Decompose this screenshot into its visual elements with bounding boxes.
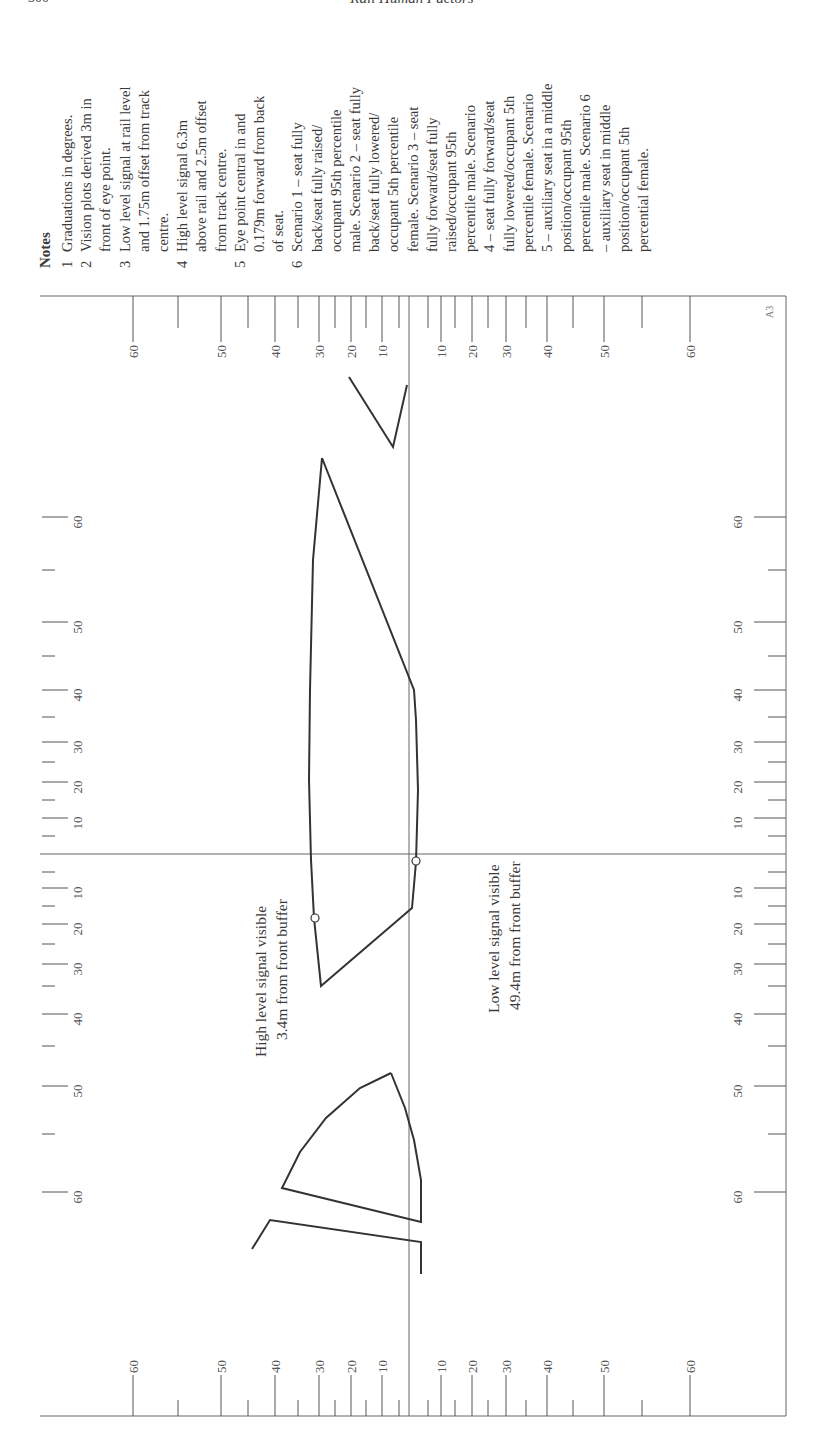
tick-label: 20 <box>70 781 85 794</box>
notes-heading: Notes <box>37 232 53 268</box>
tick-label: 30 <box>730 963 745 976</box>
tick-label: 20 <box>70 923 85 936</box>
signal-markers <box>311 857 420 922</box>
note-number: 4 <box>174 260 190 268</box>
tick-label: 20 <box>344 345 359 358</box>
tick-label: 10 <box>730 817 745 830</box>
tick-label: 30 <box>499 345 514 358</box>
note-line: position/occupant 5th <box>616 126 632 252</box>
note-line: Low level signal at rail level <box>117 87 133 252</box>
note-line: raised/occupant 95th <box>443 131 459 252</box>
tick-label: 30 <box>499 1360 514 1373</box>
tick-label: 40 <box>730 689 745 702</box>
tick-label: 30 <box>312 1360 327 1373</box>
note-line: Eye point central in and <box>232 113 248 252</box>
tick-label: 30 <box>70 963 85 976</box>
note-line: centre. <box>155 213 171 252</box>
tick-label: 40 <box>268 1360 283 1373</box>
tick-label: 30 <box>70 741 85 754</box>
annotations: High level signal visible3.4m from front… <box>252 306 775 1057</box>
note-line: and 1.75m offset from track <box>136 89 152 252</box>
notes-block: Notes1Graduations in degrees.2Vision plo… <box>37 84 651 268</box>
tick-label: 50 <box>730 621 745 634</box>
tick-label: 40 <box>540 1360 555 1373</box>
note-line: percentile male. Scenario 6 <box>577 94 593 252</box>
top-scale: 102030405060605040302010 <box>126 296 698 358</box>
tick-label: 60 <box>683 1360 698 1373</box>
right-scale: 102030405060102030405060 <box>730 516 786 1204</box>
vision-plot-lines <box>252 377 421 1274</box>
note-number: 6 <box>289 261 305 268</box>
tick-label: 50 <box>214 345 229 358</box>
tick-label: 10 <box>70 817 85 830</box>
tick-label: 10 <box>434 345 449 358</box>
plot-bottom-bracket <box>252 1220 421 1274</box>
note-line: back/seat fully raised/ <box>309 124 325 252</box>
corner-code: A3 <box>764 306 775 318</box>
tick-label: 10 <box>434 1360 449 1373</box>
frame <box>40 296 786 1416</box>
tick-label: 20 <box>730 923 745 936</box>
tick-label: 60 <box>730 1191 745 1204</box>
tick-label: 20 <box>344 1360 359 1373</box>
tick-label: 50 <box>730 1085 745 1098</box>
note-line: percentile female. Scenario <box>520 94 536 252</box>
tick-label: 40 <box>730 1013 745 1026</box>
tick-label: 50 <box>70 621 85 634</box>
low-signal-label: Low level signal visible <box>485 864 502 1013</box>
tick-label: 40 <box>268 345 283 358</box>
tick-label: 50 <box>597 1360 612 1373</box>
plot-lower-fan <box>282 1073 421 1222</box>
note-line: 0.179m forward from back <box>251 95 267 252</box>
high-signal-marker <box>311 914 319 922</box>
note-line: male. Scenario 2 – seat fully <box>347 86 363 252</box>
tick-label: 60 <box>730 516 745 529</box>
note-line: above rail and 2.5m offset <box>193 100 209 252</box>
note-line: occupant 95th percentile <box>328 109 344 252</box>
note-line: – auxiliary seat in middle <box>597 105 613 253</box>
tick-label: 10 <box>375 1360 390 1373</box>
high-signal-label: High level signal visible <box>252 906 269 1057</box>
note-line: occupant 5th percentile <box>385 117 401 252</box>
note-line: position/occupant 95th <box>558 119 574 252</box>
low-signal-marker <box>412 857 420 865</box>
tick-label: 50 <box>70 1085 85 1098</box>
note-line: percential female. <box>635 148 651 252</box>
note-line: Graduations in degrees. <box>59 115 75 252</box>
tick-label: 40 <box>70 1013 85 1026</box>
note-number: 3 <box>117 261 133 268</box>
note-line: 4 – seat fully forward/seat <box>481 101 497 252</box>
tick-label: 20 <box>465 345 480 358</box>
tick-label: 60 <box>70 516 85 529</box>
tick-label: 20 <box>730 781 745 794</box>
note-line: female. Scenario 3 – seat <box>405 107 421 252</box>
note-line: fully lowered/occupant 5th <box>501 95 517 252</box>
note-line: 5 – auxiliary seat in a middle <box>539 84 555 252</box>
note-line: percentile male. Scenario <box>462 105 478 252</box>
note-number: 2 <box>78 261 94 268</box>
tick-label: 50 <box>597 345 612 358</box>
tick-label: 60 <box>70 1191 85 1204</box>
note-line: back/seat fully lowered/ <box>366 112 382 252</box>
tick-label: 50 <box>214 1360 229 1373</box>
note-line: Scenario 1 – seat fully <box>289 122 305 252</box>
note-line: Vision plots derived 3m in <box>78 97 94 252</box>
tick-label: 60 <box>126 1360 141 1373</box>
note-line: fully forward/seat fully <box>424 117 440 252</box>
tick-label: 40 <box>540 345 555 358</box>
high-signal-distance: 3.4m from front buffer <box>273 898 290 1040</box>
low-signal-distance: 49.4m from front buffer <box>506 861 523 1010</box>
plot-top-v <box>349 377 407 447</box>
tick-label: 10 <box>730 887 745 900</box>
tick-label: 10 <box>375 345 390 358</box>
left-scale: 102030405060102030405060 <box>42 516 85 1204</box>
tick-label: 20 <box>465 1360 480 1373</box>
plot-main-outline <box>309 458 418 986</box>
tick-label: 60 <box>683 345 698 358</box>
vision-plot-diagram: 102030405060605040302010 102030405060605… <box>0 0 824 1448</box>
tick-label: 30 <box>730 741 745 754</box>
bottom-scale: 102030405060605040302010 <box>126 1360 698 1416</box>
tick-label: 40 <box>70 689 85 702</box>
tick-label: 60 <box>126 345 141 358</box>
note-number: 1 <box>59 261 75 268</box>
